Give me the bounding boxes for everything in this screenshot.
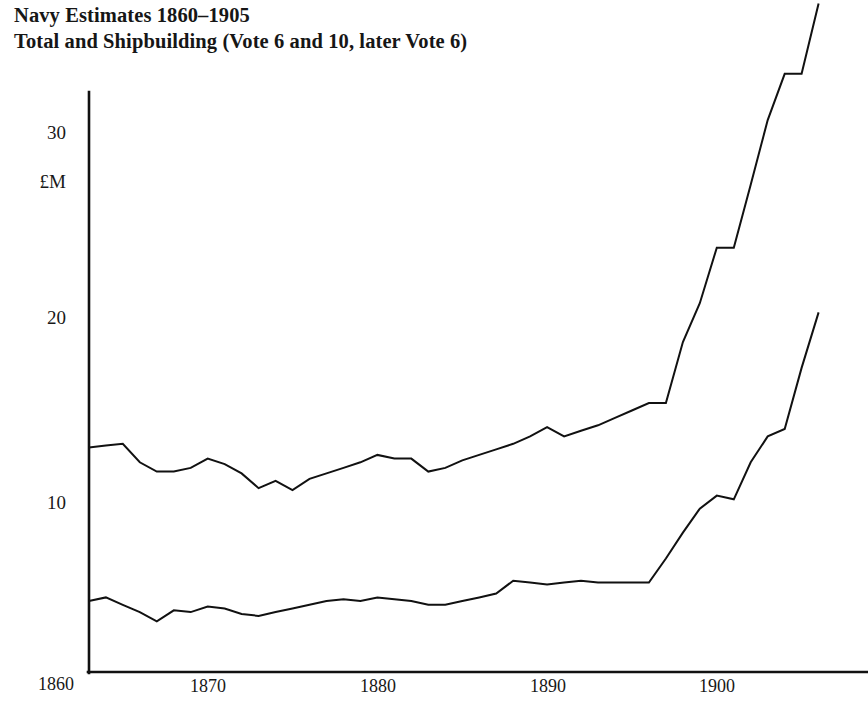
chart-plot-area: 30 £M 20 10 1860 1870 1880 1890 1900 <box>0 0 868 713</box>
x-axis-tick-label-1900: 1900 <box>687 676 747 696</box>
axis-lines <box>88 92 868 673</box>
series-line-shipbuilding <box>89 312 819 621</box>
y-axis-unit-label: £M <box>20 172 66 192</box>
series-line-total <box>89 4 819 491</box>
data-series-group <box>89 4 819 622</box>
y-axis-tick-label-10: 10 <box>20 493 66 513</box>
y-axis-tick-label-30: 30 <box>20 123 66 143</box>
line-chart-svg <box>0 0 868 713</box>
x-axis-tick-label-1870: 1870 <box>178 676 238 696</box>
chart-page: Navy Estimates 1860–1905 Total and Shipb… <box>0 0 868 713</box>
x-axis-tick-label-1880: 1880 <box>348 676 408 696</box>
x-axis-tick-label-1860: 1860 <box>26 674 86 694</box>
x-axis-tick-label-1890: 1890 <box>518 676 578 696</box>
y-axis-tick-label-20: 20 <box>20 308 66 328</box>
